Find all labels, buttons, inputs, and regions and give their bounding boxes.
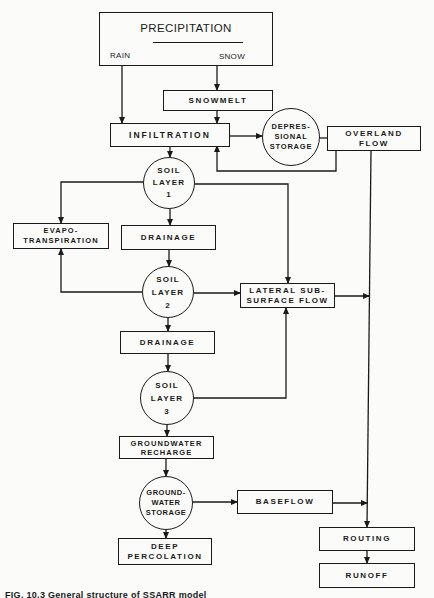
precipitation-title: PRECIPITATION [100,23,272,33]
precipitation-divider [153,42,243,43]
depressional-storage-circle: DEPRES- SIONAL STORAGE [262,108,320,166]
precipitation-box: PRECIPITATION RAIN SNOW [99,12,273,66]
rain-label: RAIN [110,51,130,61]
snowmelt-box: SNOWMELT [163,90,273,111]
runoff-box: RUNOFF [319,563,415,588]
overland-flow-box: OVERLAND FLOW [327,126,421,151]
snow-label: SNOW [219,52,245,62]
groundwater-storage-circle: GROUND- WATER STORAGE [139,476,193,530]
groundwater-recharge-box: GROUNDWATER RECHARGE [119,436,214,459]
infiltration-box: INFILTRATION [110,123,230,147]
soil-layer-1-circle: SOIL LAYER 1 [143,157,195,209]
deep-percolation-box: DEEP PERCOLATION [118,538,212,565]
drainage-2-box: DRAINAGE [120,331,215,354]
routing-box: ROUTING [319,527,415,551]
lateral-subsurface-flow-box: LATERAL SUB- SURFACE FLOW [240,283,335,308]
evapotranspiration-box: EVAPO- TRANSPIRATION [13,223,109,249]
drainage-1-box: DRAINAGE [121,225,216,250]
soil-layer-2-circle: SOIL LAYER 2 [142,266,194,318]
soil-layer-3-circle: SOIL LAYER 3 [140,371,194,425]
baseflow-box: BASEFLOW [237,490,333,514]
figure-caption: FIG. 10.3 General structure of SSARR mod… [5,590,207,598]
